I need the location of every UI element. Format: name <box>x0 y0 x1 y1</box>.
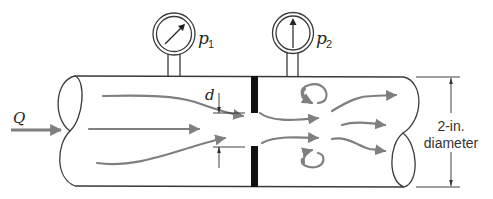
streamline-recovery-middle <box>342 123 385 125</box>
gauge-2-subscript: 2 <box>326 38 332 50</box>
pipe-top-wall <box>75 76 404 77</box>
gauge-1-outer-ring <box>153 13 195 55</box>
orifice-meter-diagram: p 1 p 2 Q d <box>0 0 493 199</box>
flow-rate-label: Q <box>13 109 25 127</box>
pipe <box>58 76 419 187</box>
downstream-streamlines <box>260 84 396 167</box>
orifice-diameter-dimension: d <box>205 86 245 168</box>
pipe-left-end-upper <box>58 76 82 131</box>
orifice-plate-top <box>251 76 258 113</box>
pressure-gauge-2: p 2 <box>273 13 333 77</box>
eddy-lower-arrow <box>304 150 312 163</box>
flow-rate-indicator: Q <box>11 109 61 130</box>
pipe-diameter-label-line2: diameter <box>424 135 479 151</box>
upstream-streamlines <box>89 96 243 164</box>
orifice-diameter-label: d <box>205 86 215 104</box>
pipe-diameter-dimension: 2-in. diameter <box>416 77 479 187</box>
pipe-diameter-label-line1: 2-in. <box>437 118 464 134</box>
gauge-2-stem <box>287 53 298 76</box>
pipe-right-end-lower <box>392 133 415 187</box>
pipe-left-end-lower <box>60 131 75 186</box>
pressure-gauge-1: p 1 <box>153 13 214 76</box>
gauge-1-subscript: 1 <box>208 38 214 50</box>
streamline-recovery-top <box>332 95 396 111</box>
diagram-canvas: p 1 p 2 Q d <box>0 0 493 199</box>
streamline-jet-bottom <box>262 137 318 143</box>
gauge-1-dial <box>157 17 192 52</box>
streamline-jet-top <box>260 113 318 120</box>
streamline-upstream-bottom <box>97 138 225 164</box>
orifice-plate <box>251 76 258 187</box>
streamline-recovery-bottom <box>332 138 385 151</box>
orifice-plate-bottom <box>251 146 258 187</box>
gauge-2-needle-tip <box>290 18 297 25</box>
pipe-bottom-wall <box>75 186 404 187</box>
pipe-right-end-upper <box>403 77 419 133</box>
gauge-1-stem <box>168 54 180 76</box>
eddy-upper-loop <box>302 84 327 103</box>
